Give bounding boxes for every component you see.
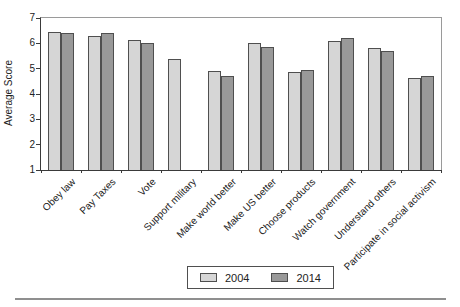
legend-swatch-2014 (271, 273, 288, 282)
x-category-label-1: Pay Taxes (78, 176, 118, 216)
bar-2014-1 (101, 33, 114, 170)
x-category-label-2: Vote (136, 176, 158, 198)
bottom-rule-divider (15, 298, 446, 300)
bar-2014-4 (221, 76, 234, 170)
y-tick-label-5: 5 (19, 63, 35, 75)
x-tick-0 (41, 170, 42, 173)
y-tick-2 (36, 144, 40, 145)
x-tick-6 (281, 170, 282, 173)
bar-chart-figure: Average Score 1234567 Obey lawPay TaxesV… (0, 0, 460, 307)
bar-2014-9 (421, 76, 434, 170)
x-tick-5 (241, 170, 242, 173)
x-tick-3 (161, 170, 162, 173)
bar-2004-5 (248, 43, 261, 170)
y-tick-3 (36, 119, 40, 120)
bar-2004-1 (88, 36, 101, 170)
y-tick-4 (36, 94, 40, 95)
legend-swatch-2004 (200, 273, 217, 282)
y-tick-label-7: 7 (19, 12, 35, 24)
x-tick-2 (121, 170, 122, 173)
legend: 2004 2014 (187, 266, 334, 289)
x-tick-7 (321, 170, 322, 173)
x-tick-8 (361, 170, 362, 173)
y-tick-label-6: 6 (19, 37, 35, 49)
bar-2014-2 (141, 43, 154, 170)
bar-2004-4 (208, 71, 221, 170)
bar-2004-3 (168, 59, 181, 170)
legend-label-2014: 2014 (296, 272, 320, 284)
legend-label-2004: 2004 (225, 272, 249, 284)
bar-2004-8 (368, 48, 381, 170)
bar-2004-2 (128, 40, 141, 170)
x-tick-10 (441, 170, 442, 173)
x-tick-9 (401, 170, 402, 173)
x-category-label-0: Obey law (41, 176, 78, 213)
y-axis-title: Average Score (3, 17, 17, 169)
bar-2004-7 (328, 41, 341, 170)
bar-2014-5 (261, 47, 274, 170)
bar-2014-8 (381, 51, 394, 170)
y-tick-label-1: 1 (19, 164, 35, 176)
bar-2014-7 (341, 38, 354, 170)
y-tick-5 (36, 68, 40, 69)
y-tick-6 (36, 43, 40, 44)
y-tick-label-4: 4 (19, 88, 35, 100)
bar-2004-9 (408, 78, 421, 170)
bar-2014-0 (61, 33, 74, 170)
y-tick-7 (36, 18, 40, 19)
x-tick-1 (81, 170, 82, 173)
x-tick-4 (201, 170, 202, 173)
y-tick-label-2: 2 (19, 139, 35, 151)
plot-area: 1234567 (40, 17, 442, 171)
bar-2004-6 (288, 72, 301, 170)
y-tick-label-3: 3 (19, 113, 35, 125)
bar-2004-0 (48, 32, 61, 170)
bar-2014-6 (301, 70, 314, 170)
y-tick-1 (36, 170, 40, 171)
